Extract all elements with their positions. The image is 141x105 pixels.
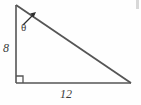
theta-angle-label: θ <box>21 22 26 33</box>
vertical-side-length-label: 8 <box>3 42 9 54</box>
right-triangle-diagram: 8 12 θ <box>0 0 141 105</box>
base-side-length-label: 12 <box>60 88 72 100</box>
right-angle-marker-icon <box>16 76 23 83</box>
scan-artifact-mark <box>136 0 139 9</box>
